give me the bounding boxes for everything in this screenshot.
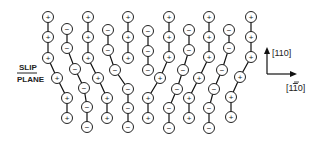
slip-plane-diagram: ++++++−−−−−−++++++−−−−−−+++−−−++++++−−−−… (0, 0, 323, 143)
ion-sign: − (65, 25, 70, 34)
ion-sign: − (65, 44, 70, 53)
ion-sign: + (238, 73, 243, 82)
ion-sign: − (167, 104, 172, 113)
ion-sign: + (86, 13, 91, 22)
ion-sign: − (73, 65, 78, 74)
ion-sign: + (146, 94, 151, 103)
ion-sign: − (227, 44, 232, 53)
ion-sign: + (249, 53, 254, 62)
ion-sign: − (167, 124, 172, 133)
ion-sign: + (167, 33, 172, 42)
ion-sign: + (86, 33, 91, 42)
ion-sign: + (249, 33, 254, 42)
horizontal-axis-label: [110] (286, 83, 305, 93)
ion-sign: + (46, 54, 51, 63)
ion-chains: ++++++−−−−−−++++++−−−−−−+++−−−++++++−−−−… (43, 12, 257, 134)
ion-sign: + (146, 114, 151, 123)
slip-label: SLIP (19, 63, 37, 72)
ion-sign: − (126, 85, 131, 94)
ion-sign: − (106, 46, 111, 55)
ion-sign: + (207, 33, 212, 42)
ion-sign: + (86, 54, 91, 63)
ion-sign: + (46, 13, 51, 22)
ion-sign: − (220, 66, 225, 75)
ion-sign: − (181, 66, 186, 75)
ion-sign: − (146, 27, 151, 36)
ion-sign: + (55, 74, 60, 83)
ion-sign: + (197, 74, 202, 83)
ion-sign: − (212, 85, 217, 94)
ion-sign: − (113, 66, 118, 75)
slip-plane-label: SLIP PLANE (17, 63, 45, 84)
cation-chain: +++ (123, 12, 134, 64)
up-arrowhead-icon (264, 47, 270, 54)
ion-sign: + (187, 114, 192, 123)
ion-sign: + (65, 114, 70, 123)
ion-sign: − (126, 123, 131, 132)
ion-sign: + (229, 113, 234, 122)
ion-sign: + (187, 94, 192, 103)
ion-sign: + (96, 74, 101, 83)
ion-sign: − (146, 66, 151, 75)
ion-sign: + (126, 13, 131, 22)
plane-label: PLANE (17, 75, 45, 84)
vertical-axis-label: [110] (272, 48, 291, 58)
ion-sign: − (106, 26, 111, 35)
h-label-part3: 0] (298, 83, 306, 93)
ion-sign: + (126, 33, 131, 42)
ion-sign: − (82, 84, 87, 93)
ion-sign: + (207, 13, 212, 22)
ion-sign: − (207, 124, 212, 133)
ion-sign: + (65, 94, 70, 103)
ion-sign: + (126, 54, 131, 63)
ion-sign: + (105, 94, 110, 103)
ion-sign: − (175, 85, 180, 94)
ion-sign: + (158, 74, 163, 83)
axes-indicator: [110] [110] (264, 47, 305, 93)
right-arrowhead-icon (290, 71, 297, 77)
ion-sign: + (105, 114, 110, 123)
ion-sign: + (167, 13, 172, 22)
ion-sign: + (46, 33, 51, 42)
ion-sign: − (146, 47, 151, 56)
ion-sign: − (207, 104, 212, 113)
ion-sign: − (187, 46, 192, 55)
anion-chain: −−− (143, 26, 154, 76)
ion-sign: − (227, 26, 232, 35)
ion-sign: − (187, 26, 192, 35)
ion-sign: + (229, 93, 234, 102)
ion-sign: + (249, 13, 254, 22)
ion-sign: + (167, 53, 172, 62)
ion-sign: − (126, 104, 131, 113)
ion-sign: − (85, 103, 90, 112)
ion-sign: + (207, 53, 212, 62)
ion-sign: − (85, 123, 90, 132)
